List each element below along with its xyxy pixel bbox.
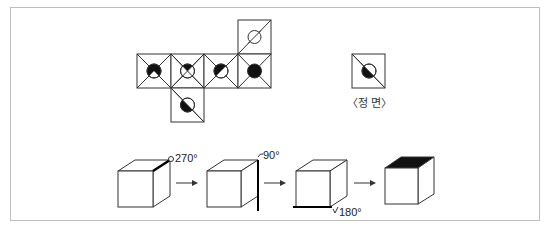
cube-net — [137, 20, 271, 122]
angle-label-270: 270° — [175, 153, 198, 164]
net-face-top — [238, 20, 271, 54]
right-arrow-icon — [354, 180, 376, 186]
net-face-row-2 — [171, 54, 204, 88]
right-arrow-icon — [176, 180, 198, 186]
cube-2 — [207, 154, 263, 211]
net-face-bottom — [171, 88, 204, 122]
front-view — [352, 54, 385, 88]
net-face-row-3 — [204, 54, 238, 88]
front-view-caption: 〈정 면〉 — [347, 94, 392, 110]
angle-label-180: 180° — [339, 207, 362, 218]
rotation-marker-icon — [333, 207, 338, 213]
figure-canvas — [0, 0, 548, 230]
rotation-marker-icon — [169, 157, 174, 162]
cube-1 — [118, 157, 174, 208]
angle-label-90: 90° — [263, 150, 280, 161]
cube-4 — [385, 157, 434, 204]
net-face-row-1 — [137, 54, 171, 88]
net-face-row-4 — [238, 54, 271, 88]
right-arrow-icon — [264, 180, 286, 186]
